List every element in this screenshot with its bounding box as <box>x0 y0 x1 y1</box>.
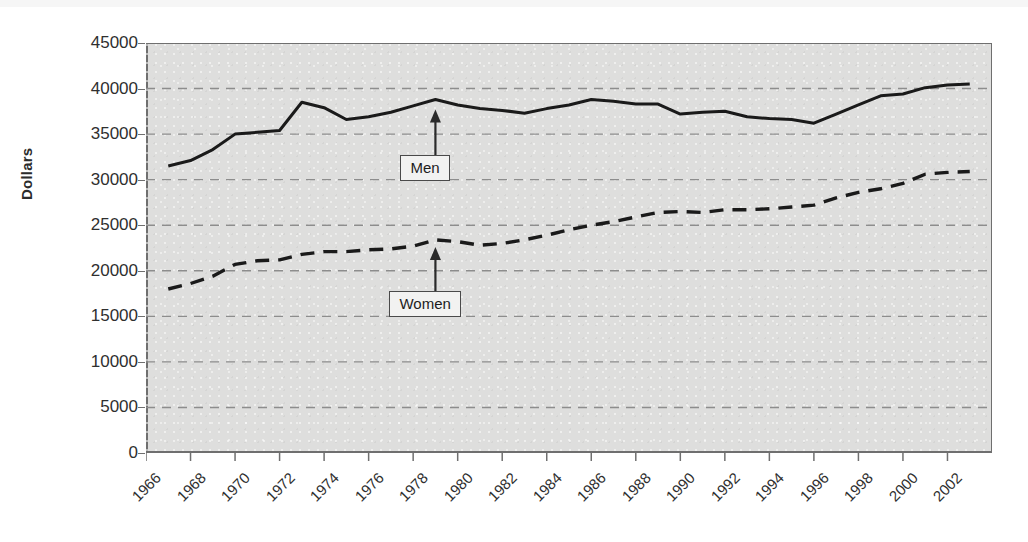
x-tick-label: 1982 <box>471 469 520 518</box>
y-tick-label: 25000 <box>46 215 138 235</box>
x-tick-label: 1976 <box>338 469 387 518</box>
x-tick-label: 1972 <box>249 469 298 518</box>
men-arrow-head <box>430 109 441 122</box>
y-tick-label: 45000 <box>46 33 138 53</box>
women-arrow-head <box>430 247 441 260</box>
x-tick-label: 1978 <box>382 469 431 518</box>
x-tick-label: 1984 <box>516 469 565 518</box>
y-tick-mark <box>138 134 145 135</box>
x-tick-label: 1968 <box>160 469 209 518</box>
x-tick-label: 1970 <box>204 469 253 518</box>
y-tick-label: 5000 <box>46 397 138 417</box>
x-axis-ticks <box>146 453 996 465</box>
y-axis-tick-labels: 0500010000150002000025000300003500040000… <box>42 0 138 542</box>
y-tick-mark <box>138 225 145 226</box>
scan-edge-strip <box>0 0 1028 7</box>
x-tick-label: 1996 <box>783 469 832 518</box>
x-tick-label: 1986 <box>560 469 609 518</box>
x-tick-label: 2002 <box>917 469 966 518</box>
x-tick-label: 1974 <box>293 469 342 518</box>
x-tick-label: 1994 <box>739 469 788 518</box>
y-tick-label: 15000 <box>46 306 138 326</box>
y-tick-label: 10000 <box>46 352 138 372</box>
x-tick-label: 1990 <box>650 469 699 518</box>
y-tick-label: 40000 <box>46 79 138 99</box>
y-tick-label: 0 <box>46 443 138 463</box>
y-tick-mark <box>138 362 145 363</box>
y-tick-mark <box>138 89 145 90</box>
x-tick-label: 1980 <box>427 469 476 518</box>
men-annotation-label: Men <box>400 155 449 181</box>
y-tick-mark <box>138 407 145 408</box>
x-tick-label: 2000 <box>872 469 921 518</box>
y-tick-label: 35000 <box>46 124 138 144</box>
women-annotation-label: Women <box>389 291 460 317</box>
x-tick-label: 1998 <box>828 469 877 518</box>
y-tick-label: 30000 <box>46 170 138 190</box>
y-tick-mark <box>138 453 145 454</box>
x-tick-label: 1992 <box>694 469 743 518</box>
x-tick-label: 1988 <box>605 469 654 518</box>
chart-figure: Dollars 05000100001500020000250003000035… <box>0 0 1028 542</box>
y-tick-mark <box>138 180 145 181</box>
y-tick-mark <box>138 43 145 44</box>
annotation-arrows <box>146 43 992 453</box>
y-tick-mark <box>138 316 145 317</box>
y-axis-title: Dollars <box>18 80 35 200</box>
y-tick-label: 20000 <box>46 261 138 281</box>
y-tick-mark <box>138 271 145 272</box>
plot-area <box>146 43 992 453</box>
